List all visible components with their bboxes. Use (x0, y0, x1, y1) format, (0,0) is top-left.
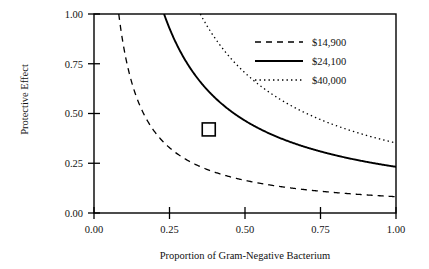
base-case-marker (202, 123, 215, 136)
x-tick-label-1.00: 1.00 (387, 224, 405, 235)
x-tick-label-0.75: 0.75 (311, 224, 329, 235)
annotation-group (202, 123, 215, 136)
plot-frame (94, 14, 396, 213)
y-tick-label-0.50: 0.50 (65, 108, 83, 119)
y-tick-label-0.00: 0.00 (65, 208, 83, 219)
series-line-2 (200, 14, 396, 143)
chart-plot-area: 0.000.250.500.751.00 0.000.250.500.751.0… (0, 0, 429, 269)
y-tick-label-0.25: 0.25 (65, 158, 83, 169)
series-line-1 (164, 14, 396, 167)
x-tick-label-0.50: 0.50 (236, 224, 254, 235)
y-tick-label-1.00: 1.00 (65, 9, 83, 20)
chart-legend: $14,900$24,100$40,000 (255, 37, 346, 86)
figure-container: Protective Effect Proportion of Gram-Neg… (0, 0, 429, 269)
legend-label-1: $24,100 (312, 56, 346, 67)
x-tick-label-0.25: 0.25 (160, 224, 178, 235)
x-tick-label-0.00: 0.00 (85, 224, 103, 235)
y-axis-tick-labels: 0.000.250.500.751.00 (65, 9, 83, 219)
footer-strip (0, 262, 429, 269)
y-tick-label-0.75: 0.75 (65, 59, 83, 70)
x-axis-tick-labels: 0.000.250.500.751.00 (85, 224, 405, 235)
legend-label-0: $14,900 (312, 37, 346, 48)
legend-label-2: $40,000 (312, 75, 346, 86)
